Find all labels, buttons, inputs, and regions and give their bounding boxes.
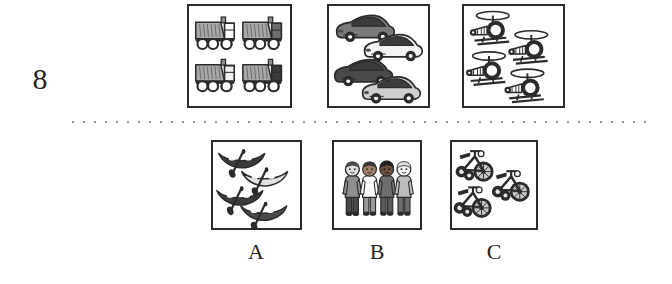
canoes-illustration [213,142,300,228]
canoe-1 [219,149,265,179]
item-number: 8 [18,62,62,96]
option-letter-b[interactable]: B [347,239,407,265]
worksheet-page: 8 [0,0,672,284]
option-letter-c[interactable]: C [464,239,524,265]
helicopter-3 [466,52,505,85]
tricycles-illustration [452,142,536,228]
child-3-figure [377,161,396,216]
car-2 [365,35,423,62]
dotted-divider [72,121,655,123]
helicopter-2 [508,31,547,64]
option-panel-a-canoes[interactable] [211,140,302,230]
child-4-figure [395,162,414,216]
child-1-figure [343,162,362,216]
canoe-2 [242,167,288,197]
children-illustration [334,142,420,228]
tricycle-2 [492,171,530,202]
stimulus-panel-trucks [187,4,292,108]
stimulus-panel-helicopters [462,4,565,108]
child-2-figure [360,162,379,216]
canoe-4 [241,202,287,228]
stimulus-panel-cars [327,4,430,108]
tricycle-1 [456,151,494,182]
helicopter-4 [504,69,543,102]
option-letter-a[interactable]: A [226,239,286,265]
cars-illustration [329,6,428,106]
trucks-illustration [189,6,290,106]
tricycle-3 [454,187,492,218]
option-panel-c-tricycles[interactable] [450,140,538,230]
helicopter-1 [470,11,509,44]
helicopters-illustration [464,6,563,106]
option-panel-b-children[interactable] [332,140,422,230]
